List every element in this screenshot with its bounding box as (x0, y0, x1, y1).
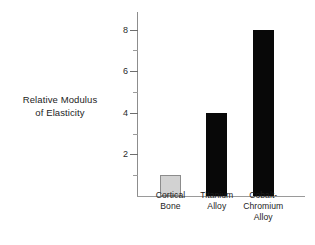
y-tick-minor-3 (133, 134, 138, 135)
y-tick-label: 6 (123, 66, 128, 76)
y-tick-mark (130, 30, 138, 31)
y-tick-minor-7 (133, 50, 138, 51)
category-label-cobalt-chromium-alloy: Cobalt-ChromiumAlloy (223, 190, 303, 223)
category-label-line: Cobalt- (223, 190, 303, 201)
y-tick-minor-5 (133, 92, 138, 93)
y-tick-mark (130, 71, 138, 72)
y-axis-title: Relative Modulus of Elasticity (8, 94, 112, 119)
y-tick-minor-1 (133, 175, 138, 176)
bar-cobalt-chromium-alloy (253, 30, 274, 196)
y-axis-line (137, 12, 138, 196)
y-tick-label: 8 (123, 25, 128, 35)
y-axis-title-line-2: of Elasticity (8, 107, 112, 120)
plot-area: 2468 (137, 12, 305, 196)
y-tick-label: 4 (123, 108, 128, 118)
y-tick-mark (130, 154, 138, 155)
category-label-line: Chromium (223, 201, 303, 212)
y-tick-label: 2 (123, 149, 128, 159)
y-tick-mark (130, 113, 138, 114)
bar-chart-figure: Relative Modulus of Elasticity 2468 Cort… (0, 0, 315, 245)
category-label-line: Alloy (223, 212, 303, 223)
bar-titanium-alloy (206, 113, 227, 196)
y-axis-title-line-1: Relative Modulus (8, 94, 112, 107)
